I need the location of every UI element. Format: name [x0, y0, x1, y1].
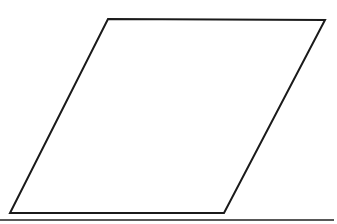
- parallelogram-shape: [10, 19, 325, 213]
- parallelogram-figure: [0, 0, 337, 224]
- bottom-border-line: [0, 219, 334, 221]
- figure-canvas: [0, 0, 337, 224]
